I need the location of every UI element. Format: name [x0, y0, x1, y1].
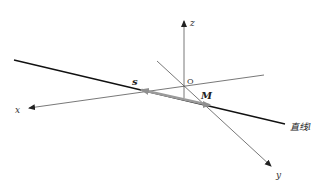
x-axis-label: x — [15, 105, 20, 115]
vector-s — [142, 90, 209, 105]
point-m-label: M — [200, 90, 213, 101]
line-l-label-var: l — [308, 122, 311, 132]
line-l-label-prefix: 直线 — [290, 122, 309, 132]
z-axis-label: z — [189, 18, 195, 28]
line-l-label: 直线l — [290, 122, 311, 132]
origin-label: O — [187, 77, 194, 86]
y-axis-label: y — [275, 170, 282, 180]
coordinate-diagram: z O x y s M 直线l — [0, 0, 330, 189]
vector-s-label: s — [132, 76, 138, 87]
